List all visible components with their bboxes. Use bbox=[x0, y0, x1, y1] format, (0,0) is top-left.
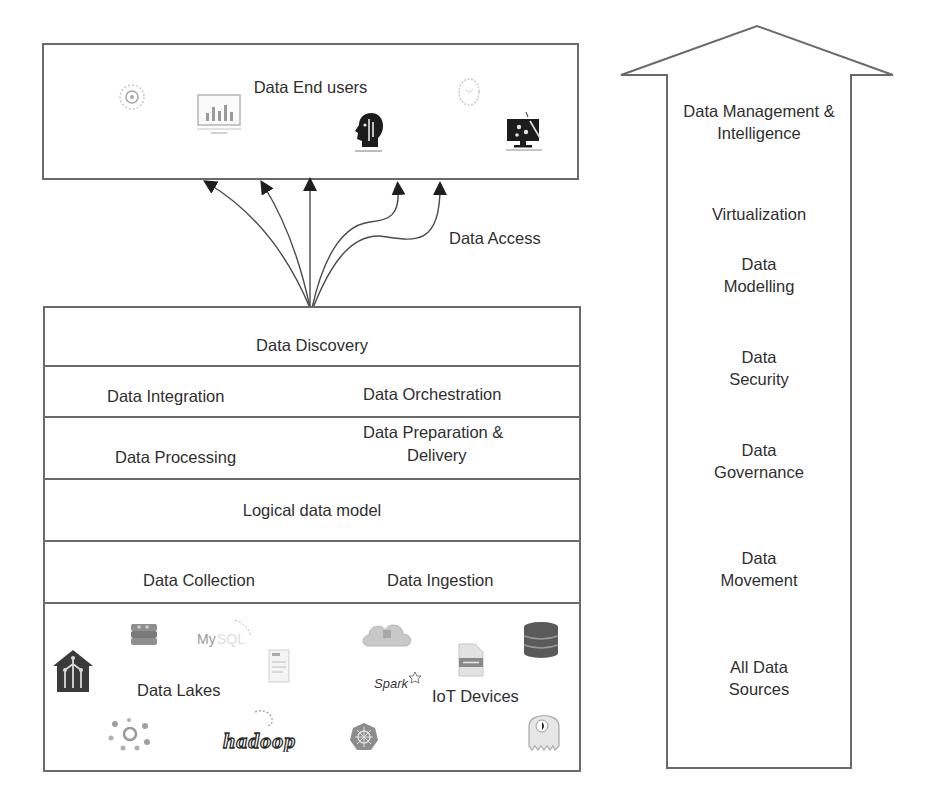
side-item-line1: All Data bbox=[667, 656, 851, 678]
side-item-line1: Virtualization bbox=[667, 203, 851, 225]
side-item-management: Data Management & Intelligence bbox=[667, 100, 851, 144]
side-item-line1: Data bbox=[667, 253, 851, 275]
side-item-modelling: Data Modelling bbox=[667, 253, 851, 297]
side-item-line2: Intelligence bbox=[667, 122, 851, 144]
side-item-governance: Data Governance bbox=[667, 439, 851, 483]
side-item-line2: Modelling bbox=[667, 275, 851, 297]
side-item-movement: Data Movement bbox=[667, 547, 851, 591]
side-item-line1: Data bbox=[667, 346, 851, 368]
side-item-line1: Data Management & bbox=[667, 100, 851, 122]
side-item-line2: Sources bbox=[667, 678, 851, 700]
side-item-virtualization: Virtualization bbox=[667, 203, 851, 225]
side-item-line2: Governance bbox=[667, 461, 851, 483]
side-item-security: Data Security bbox=[667, 346, 851, 390]
side-item-line1: Data bbox=[667, 439, 851, 461]
side-item-line2: Movement bbox=[667, 569, 851, 591]
side-item-sources: All Data Sources bbox=[667, 656, 851, 700]
side-item-line2: Security bbox=[667, 368, 851, 390]
side-item-line1: Data bbox=[667, 547, 851, 569]
